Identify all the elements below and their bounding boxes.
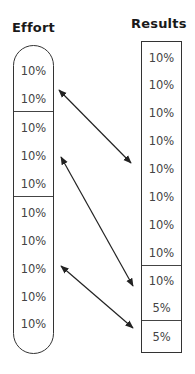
double-arrow-icon bbox=[61, 157, 133, 286]
connector-arrows bbox=[0, 0, 195, 374]
double-arrow-icon bbox=[61, 266, 133, 328]
double-arrow-icon bbox=[59, 90, 131, 163]
